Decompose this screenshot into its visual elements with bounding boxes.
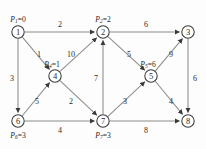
node-4[interactable]: 4 [49,70,61,82]
edge-weight-4-2: 10 [67,50,75,59]
edge-weight-1-6: 3 [10,74,14,83]
node-8[interactable]: 8 [182,115,194,127]
potential-label-4: P4=1 [43,59,60,69]
graph-canvas: 2131025473865946 12345678 P1=0P2=2P4=1P5… [0,0,206,149]
potential-label-1: P1=0 [9,14,26,24]
edge-4-to-7 [60,81,97,115]
node-number-2: 2 [101,27,105,37]
potential-label-7: P7=3 [94,131,111,141]
edge-weight-1-4: 1 [37,50,41,59]
node-number-3: 3 [186,27,190,37]
edge-weight-3-8: 6 [193,74,197,83]
node-number-6: 6 [16,116,20,126]
node-5[interactable]: 5 [145,70,157,82]
edge-weight-5-3: 9 [169,50,173,59]
potential-label-2: P2=2 [94,14,111,24]
edge-weight-1-2: 2 [58,20,62,29]
edge-weight-6-7: 4 [58,126,62,135]
potential-label-5: P5=6 [139,59,156,69]
network-diagram-figure: 2131025473865946 12345678 P1=0P2=2P4=1P5… [0,0,206,149]
edge-weight-2-5: 5 [127,50,131,59]
edge-weight-5-8: 4 [169,97,173,106]
edge-weight-2-3: 6 [144,20,148,29]
node-number-5: 5 [149,71,153,81]
edge-weight-7-8: 8 [144,126,148,135]
node-2[interactable]: 2 [97,26,109,38]
edge-4-to-2 [60,38,97,72]
edge-weight-7-2: 7 [94,74,98,83]
edge-weight-7-5: 3 [123,97,127,106]
node-7[interactable]: 7 [97,115,109,127]
node-3[interactable]: 3 [182,26,194,38]
potential-label-6: P6=3 [9,131,26,141]
node-number-7: 7 [101,116,105,126]
node-6[interactable]: 6 [12,115,24,127]
node-number-1: 1 [16,27,20,37]
node-1[interactable]: 1 [12,26,24,38]
edge-weight-4-7: 2 [69,97,73,106]
edge-weight-6-4: 5 [35,97,39,106]
node-number-8: 8 [186,116,190,126]
